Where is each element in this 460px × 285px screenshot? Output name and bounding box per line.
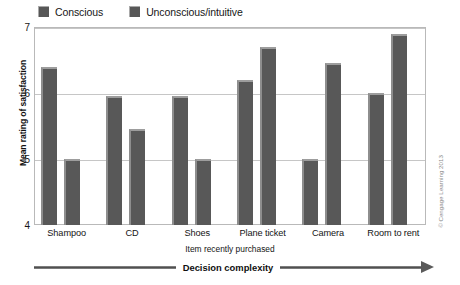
- bar: [41, 67, 57, 225]
- legend-swatch-icon: [38, 6, 49, 17]
- arrow-head-icon: [421, 261, 434, 273]
- bar-group: [230, 27, 295, 225]
- annotation-label: Decision complexity: [176, 262, 281, 273]
- bar: [325, 63, 341, 225]
- x-axis-ticks: ShampooCDShoesPlane ticketCameraRoom to …: [34, 228, 426, 242]
- y-tick-label: 6: [14, 88, 30, 99]
- legend-label-conscious: Conscious: [55, 6, 103, 18]
- legend-label-unconscious: Unconscious/intuitive: [146, 6, 243, 18]
- legend-entry-unconscious: Unconscious/intuitive: [129, 6, 243, 18]
- x-tick-label: CD: [125, 228, 138, 238]
- bar: [368, 93, 384, 225]
- y-axis-title: Mean rating of satisfaction: [18, 38, 28, 188]
- bar: [106, 96, 122, 225]
- bar-series-layer: [34, 27, 426, 225]
- bar: [172, 96, 188, 225]
- x-tick-label: Plane ticket: [240, 228, 286, 238]
- y-tick-label: 4: [14, 220, 30, 231]
- bar: [129, 129, 145, 225]
- credit-text: © Cengage Learning 2013: [437, 142, 444, 242]
- bar-group: [165, 27, 230, 225]
- bar: [260, 47, 276, 225]
- bar-group: [99, 27, 164, 225]
- bar-group: [295, 27, 360, 225]
- bar: [237, 80, 253, 225]
- legend-swatch-icon: [129, 6, 140, 17]
- y-tick-label: 7: [14, 22, 30, 33]
- arrow-line-right: [280, 266, 422, 269]
- x-tick-label: Room to rent: [367, 228, 419, 238]
- bar: [391, 34, 407, 225]
- bar-chart-figure: Conscious Unconscious/intuitive Mean rat…: [0, 0, 460, 285]
- x-tick-label: Shampoo: [47, 228, 86, 238]
- bar: [64, 159, 80, 225]
- bar-group: [34, 27, 99, 225]
- bar: [302, 159, 318, 225]
- decision-complexity-annotation: Decision complexity: [34, 258, 434, 276]
- x-axis-title: Item recently purchased: [34, 244, 426, 254]
- bar: [195, 159, 211, 225]
- arrow-line-left: [34, 266, 176, 269]
- legend-entry-conscious: Conscious: [38, 6, 103, 18]
- chart-legend: Conscious Unconscious/intuitive: [38, 3, 243, 20]
- x-tick-label: Camera: [312, 228, 344, 238]
- bar-group: [361, 27, 426, 225]
- y-tick-label: 5: [14, 154, 30, 165]
- x-tick-label: Shoes: [185, 228, 211, 238]
